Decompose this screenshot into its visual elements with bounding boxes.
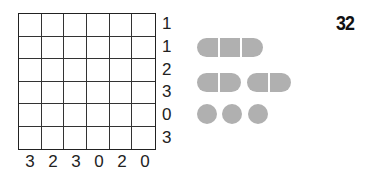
- grid-cell[interactable]: [132, 59, 155, 82]
- grid-cell[interactable]: [110, 14, 133, 37]
- grid-cell[interactable]: [42, 127, 65, 150]
- puzzle-grid: [18, 13, 156, 150]
- grid-cell[interactable]: [19, 127, 42, 150]
- row-clue: 3: [162, 129, 178, 146]
- grid-cell[interactable]: [132, 14, 155, 37]
- column-clue: 3: [66, 153, 86, 170]
- grid-cell[interactable]: [64, 37, 87, 60]
- grid-cell[interactable]: [87, 59, 110, 82]
- grid-cell[interactable]: [42, 104, 65, 127]
- grid-cell[interactable]: [87, 37, 110, 60]
- grid-cell[interactable]: [110, 82, 133, 105]
- grid-cell[interactable]: [87, 14, 110, 37]
- grid-cell[interactable]: [110, 37, 133, 60]
- row-clue: 3: [162, 83, 178, 100]
- row-clue: 1: [162, 38, 178, 55]
- grid-cell[interactable]: [42, 82, 65, 105]
- grid-cell[interactable]: [64, 104, 87, 127]
- grid-cell[interactable]: [42, 59, 65, 82]
- ship-end-left: [247, 73, 268, 92]
- submarine-ship: [222, 104, 242, 124]
- column-clue: 0: [89, 153, 109, 170]
- row-clue: 2: [162, 61, 178, 78]
- grid-cell[interactable]: [132, 37, 155, 60]
- grid-cell[interactable]: [132, 104, 155, 127]
- grid-cell[interactable]: [110, 59, 133, 82]
- ship-end-left: [197, 38, 218, 57]
- grid-cell[interactable]: [110, 104, 133, 127]
- grid-cell[interactable]: [64, 82, 87, 105]
- column-clue: 2: [112, 153, 132, 170]
- submarine-ship: [197, 104, 217, 124]
- grid-cell[interactable]: [87, 127, 110, 150]
- grid-cell[interactable]: [110, 127, 133, 150]
- grid-cell[interactable]: [19, 104, 42, 127]
- grid-cell[interactable]: [132, 127, 155, 150]
- row-clue: 0: [162, 106, 178, 123]
- submarine-ship: [248, 104, 268, 124]
- ship-end-right: [242, 38, 263, 57]
- grid-cell[interactable]: [19, 59, 42, 82]
- grid-cell[interactable]: [64, 14, 87, 37]
- grid-cell[interactable]: [19, 82, 42, 105]
- ship-end-right: [270, 73, 291, 92]
- grid-cell[interactable]: [132, 82, 155, 105]
- grid-cell[interactable]: [19, 37, 42, 60]
- column-clue: 0: [135, 153, 155, 170]
- grid-cell[interactable]: [42, 37, 65, 60]
- row-clue: 1: [162, 15, 178, 32]
- puzzle-number: 32: [336, 11, 354, 35]
- ship-end-left: [197, 73, 218, 92]
- column-clue: 3: [20, 153, 40, 170]
- grid-cell[interactable]: [87, 104, 110, 127]
- grid-cell[interactable]: [64, 59, 87, 82]
- grid-cell[interactable]: [87, 82, 110, 105]
- ship-end-right: [220, 73, 241, 92]
- ship-middle: [220, 38, 240, 57]
- grid-cell[interactable]: [42, 14, 65, 37]
- column-clue: 2: [43, 153, 63, 170]
- grid-cell[interactable]: [19, 14, 42, 37]
- grid-cell[interactable]: [64, 127, 87, 150]
